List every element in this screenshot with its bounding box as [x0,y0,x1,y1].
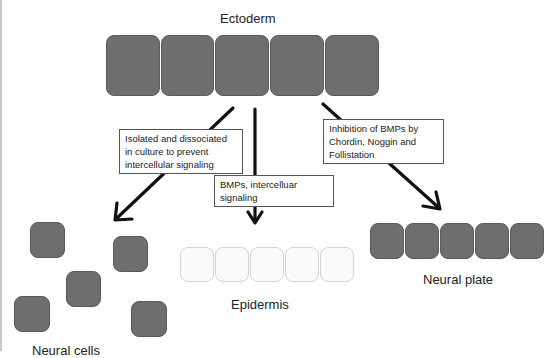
neural-plate-label: Neural plate [423,272,493,287]
neural-plate-cell [440,223,474,259]
isolated-cell [30,222,65,258]
isolated-cell [131,301,167,337]
isolated-cell [14,296,50,332]
label-line: Follistation [329,148,438,161]
neural-plate-cell [475,223,509,259]
epidermis-cell [320,247,354,282]
neural-cells-label: Neural cells [32,343,100,358]
epidermis-cell [285,247,319,282]
label-line: intercellular signaling [125,158,237,171]
isolated-cell [66,271,101,307]
label-line: in culture to prevent [125,145,237,158]
left-arrow-label: Isolated and dissociated in culture to p… [119,129,243,174]
epidermis-cell [250,247,284,282]
right-arrow-label: Inhibition of BMPs by Chordin, Noggin an… [323,119,444,164]
isolated-cell [113,236,148,272]
epidermis-cell [215,247,249,282]
center-arrow-label: BMPs, intercelluar signaling [214,175,334,207]
label-line: Isolated and dissociated [125,132,237,145]
neural-plate-cell [510,223,544,259]
epidermis-label: Epidermis [231,297,289,312]
neural-plate-row [370,223,544,259]
neural-plate-cell [405,223,439,259]
neural-plate-cell [370,223,404,259]
epidermis-cell [180,247,214,282]
label-line: BMPs, intercelluar signaling [220,178,328,204]
epidermis-row [180,247,354,282]
label-line: Chordin, Noggin and [329,135,438,148]
label-line: Inhibition of BMPs by [329,122,438,135]
